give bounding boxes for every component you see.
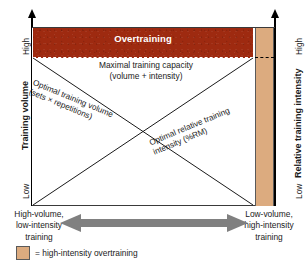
right-axis-arrow-icon xyxy=(271,9,279,18)
left-axis-arrow-icon xyxy=(28,9,36,18)
right-axis-line xyxy=(274,16,276,206)
high-intensity-overtraining-swatch xyxy=(16,246,30,260)
curves-svg xyxy=(32,27,274,206)
right-axis-title: Relative training intensity xyxy=(293,68,303,178)
left-axis-title: Training volume xyxy=(20,81,30,150)
left-axis-low-label: Low xyxy=(21,184,31,199)
bottom-right-line-3: training xyxy=(232,232,306,243)
right-axis-high-label: High xyxy=(294,38,304,55)
bottom-left-line-3: training xyxy=(2,232,76,243)
training-volume-intensity-figure: Overtraining Maximal training capacity (… xyxy=(0,0,307,268)
legend: = high-intensity overtraining xyxy=(16,246,138,260)
left-axis-high-label: High xyxy=(21,38,31,55)
volume-intensity-continuum-arrow-icon xyxy=(60,213,248,233)
legend-label: = high-intensity overtraining xyxy=(35,248,138,258)
right-axis-low-label: Low xyxy=(294,184,304,199)
